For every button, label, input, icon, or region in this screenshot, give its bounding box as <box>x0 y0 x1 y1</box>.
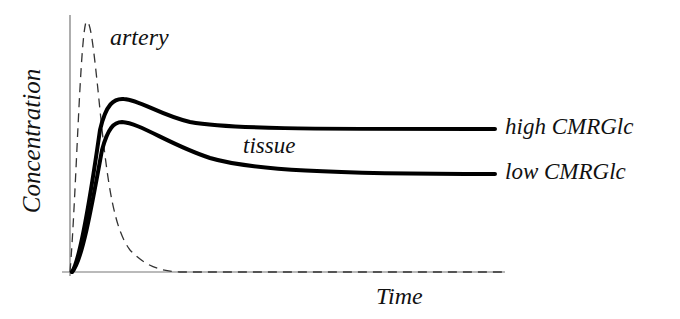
high-cmrglc-label: high CMRGlc <box>505 114 633 140</box>
low-cmrglc-label: low CMRGlc <box>505 159 626 185</box>
x-axis-label: Time <box>376 283 423 310</box>
artery-label: artery <box>110 24 169 51</box>
tissue-label: tissue <box>243 133 295 159</box>
y-axis-label: Concentration <box>18 66 46 216</box>
